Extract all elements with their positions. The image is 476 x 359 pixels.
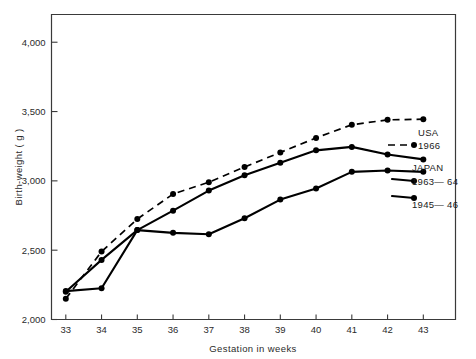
- data-point-marker: [420, 116, 426, 122]
- data-point-marker: [99, 249, 105, 255]
- legend-usa-year: 1966: [418, 140, 440, 151]
- x-tick-label: 41: [347, 324, 358, 335]
- data-point-marker: [385, 152, 391, 158]
- data-point-marker: [349, 122, 355, 128]
- data-point-marker: [170, 208, 176, 214]
- data-point-marker: [349, 144, 355, 150]
- x-tick-label: 36: [168, 324, 179, 335]
- data-point-marker: [170, 230, 176, 236]
- x-tick-label: 37: [204, 324, 215, 335]
- data-point-marker: [242, 172, 248, 178]
- data-point-marker: [206, 179, 212, 185]
- y-tick-label: 3,000: [22, 175, 46, 186]
- x-tick-label: 38: [239, 324, 250, 335]
- data-point-marker: [206, 188, 212, 194]
- birthweight-gestation-line-chart: 3334353637383940414243 2,0002,5003,0003,…: [0, 0, 476, 359]
- data-point-marker: [242, 164, 248, 170]
- data-point-marker: [99, 285, 105, 291]
- data-point-marker: [134, 216, 140, 222]
- data-point-marker: [63, 296, 69, 302]
- x-tick-label: 42: [382, 324, 393, 335]
- plot-frame: [52, 15, 456, 320]
- data-point-marker: [170, 191, 176, 197]
- y-axis-title: Birth-weight ( g ): [13, 129, 24, 206]
- y-tick-label: 2,000: [22, 314, 46, 325]
- x-tick-label: 43: [418, 324, 429, 335]
- y-tick-label: 4,000: [22, 37, 46, 48]
- series-line-2: [66, 170, 424, 291]
- series-layer: [63, 116, 427, 302]
- data-point-marker: [313, 185, 319, 191]
- data-point-marker: [385, 167, 391, 173]
- data-point-marker: [134, 227, 140, 233]
- legend-usa-title: USA: [418, 127, 439, 138]
- x-tick-label: 34: [96, 324, 107, 335]
- x-axis-ticks: 3334353637383940414243: [61, 315, 429, 335]
- data-point-marker: [349, 169, 355, 175]
- data-point-marker: [99, 257, 105, 263]
- legend-japan-years-1945: 1945— 46: [412, 199, 458, 210]
- data-point-marker: [313, 135, 319, 141]
- x-tick-label: 39: [275, 324, 286, 335]
- x-tick-label: 40: [311, 324, 322, 335]
- data-point-marker: [206, 231, 212, 237]
- y-tick-label: 3,500: [22, 106, 46, 117]
- data-point-marker: [242, 215, 248, 221]
- y-axis-ticks: 2,0002,5003,0003,5004,000: [22, 37, 58, 325]
- chart-figure: 3334353637383940414243 2,0002,5003,0003,…: [0, 0, 476, 359]
- data-point-marker: [313, 147, 319, 153]
- data-point-marker: [277, 149, 283, 155]
- x-axis-title: Gestation in weeks: [209, 343, 296, 354]
- series-line-0: [66, 119, 424, 299]
- y-tick-label: 2,500: [22, 245, 46, 256]
- legend-sample-1: [392, 179, 414, 181]
- legend-sample-2: [392, 196, 414, 198]
- data-point-marker: [63, 288, 69, 294]
- data-point-marker: [385, 117, 391, 123]
- legend-sample-marker: [411, 142, 417, 148]
- x-tick-label: 33: [61, 324, 72, 335]
- data-point-marker: [277, 197, 283, 203]
- legend-japan-years-1963: 1963— 64: [412, 176, 458, 187]
- x-tick-label: 35: [132, 324, 143, 335]
- data-point-marker: [277, 160, 283, 166]
- legend-japan-title: JAPAN: [412, 162, 443, 173]
